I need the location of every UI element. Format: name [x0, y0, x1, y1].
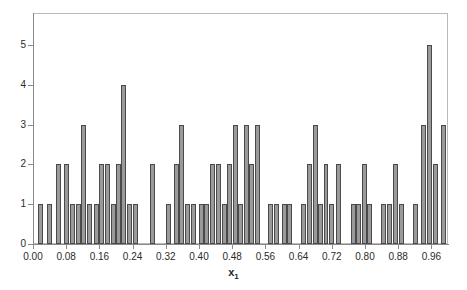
histogram-bar — [356, 204, 361, 244]
histogram-bar — [441, 125, 446, 244]
histogram-bar — [38, 204, 43, 244]
y-axis-label-wrap: 1 — [0, 199, 26, 209]
y-axis-label-wrap: 3 — [0, 120, 26, 130]
x-axis-tick — [133, 245, 134, 249]
x-axis-tick — [431, 245, 432, 249]
x-axis-title: x1 — [0, 266, 467, 281]
histogram-bar — [255, 125, 260, 244]
histogram-bar — [336, 164, 341, 244]
histogram-bar — [133, 204, 138, 244]
histogram-bar — [268, 204, 273, 244]
histogram-bar — [287, 204, 292, 244]
x-axis-tick — [332, 245, 333, 249]
histogram-bar — [191, 204, 196, 244]
y-axis-label-wrap: 5 — [0, 40, 26, 50]
histogram-bar — [387, 204, 392, 244]
x-axis-spine — [33, 244, 449, 245]
x-axis-label-wrap: 0.96 — [409, 251, 453, 262]
y-axis-label-wrap: 2 — [0, 159, 26, 169]
histogram-bar — [56, 164, 61, 244]
y-axis-tick-label: 0 — [2, 239, 26, 249]
histogram-bar — [249, 164, 254, 244]
histogram-bar — [204, 204, 209, 244]
y-axis-tick-label: 5 — [2, 40, 26, 50]
histogram-bar — [381, 204, 386, 244]
histogram-bar — [64, 164, 69, 244]
x-axis-title-subscript: 1 — [234, 272, 238, 281]
x-axis-tick-label: 0.96 — [409, 251, 453, 262]
histogram-bar — [351, 204, 356, 244]
histogram-bar — [47, 204, 52, 244]
y-axis-tick-label: 2 — [2, 159, 26, 169]
histogram-bar — [307, 164, 312, 244]
histogram-bar — [362, 164, 367, 244]
y-axis-tick-label: 3 — [2, 120, 26, 130]
histogram-bar — [210, 164, 215, 244]
x-axis-tick — [265, 245, 266, 249]
x-axis-tick — [33, 245, 34, 249]
histogram-bar — [329, 204, 334, 244]
y-axis-label-wrap: 0 — [0, 239, 26, 249]
histogram-bar — [399, 204, 404, 244]
histogram-bar — [301, 204, 306, 244]
bars-layer — [33, 13, 448, 244]
histogram-bar — [427, 45, 432, 244]
histogram-bar — [393, 164, 398, 244]
histogram-bar — [99, 164, 104, 244]
histogram-bar — [216, 164, 221, 244]
histogram-bar — [81, 125, 86, 244]
x-axis-tick — [398, 245, 399, 249]
histogram-bar — [227, 164, 232, 244]
x-axis-tick — [66, 245, 67, 249]
x-axis-tick — [365, 245, 366, 249]
histogram-bar — [70, 204, 75, 244]
x-axis-tick — [99, 245, 100, 249]
histogram-bar — [222, 204, 227, 244]
x-axis-tick — [166, 245, 167, 249]
histogram-bar — [105, 164, 110, 244]
y-axis-tick-label: 4 — [2, 80, 26, 90]
histogram-bar — [199, 204, 204, 244]
y-axis-tick-label: 1 — [2, 199, 26, 209]
histogram-bar — [166, 204, 171, 244]
histogram-bar — [121, 85, 126, 244]
histogram-bar — [76, 204, 81, 244]
x-axis-tick — [232, 245, 233, 249]
histogram-bar — [179, 125, 184, 244]
x-axis-tick — [299, 245, 300, 249]
histogram-bar — [313, 125, 318, 244]
y-axis-label-wrap: 4 — [0, 80, 26, 90]
histogram-bar — [238, 204, 243, 244]
histogram-bar — [324, 164, 329, 244]
histogram-bar — [87, 204, 92, 244]
histogram-bar — [318, 204, 323, 244]
histogram-bar — [282, 204, 287, 244]
histogram-bar — [413, 204, 418, 244]
histogram-bar — [421, 125, 426, 244]
histogram-figure: 012345 0.000.080.160.240.320.400.480.560… — [0, 0, 467, 290]
histogram-bar — [185, 204, 190, 244]
histogram-bar — [433, 164, 438, 244]
histogram-bar — [233, 125, 238, 244]
histogram-bar — [274, 204, 279, 244]
histogram-bar — [127, 204, 132, 244]
histogram-bar — [367, 204, 372, 244]
histogram-bar — [150, 164, 155, 244]
x-axis-tick — [199, 245, 200, 249]
